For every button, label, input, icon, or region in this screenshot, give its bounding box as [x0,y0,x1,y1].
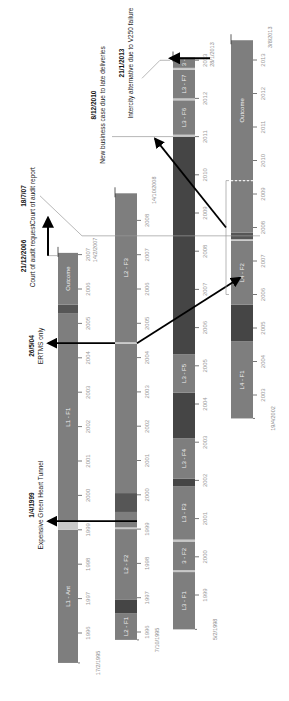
segment-label: L4 - F1 [239,370,245,390]
segment [58,521,78,530]
tick-label: 2003 [202,435,208,449]
segment [173,137,195,355]
event-new-business-case: 8/12/2010 New business case due to late … [90,46,106,164]
tick-label: 2006 [202,320,208,334]
segment-label: L3 - F4 [181,448,187,468]
tick-label: 2012 [202,91,208,105]
segment [173,68,195,70]
event-description: Court of audit request [29,225,37,288]
segment-label: L2 - F3 [123,258,129,278]
tick-label: 2000 [85,488,91,502]
tick-label: 2003 [260,388,266,402]
event-court-of-audit-request: 21/12/2006 Court of audit request [20,225,37,288]
event-line-intercity-diag [142,60,160,78]
event-line-court-report-diag [40,196,82,236]
start-date-label: 7/10/1995 [154,628,160,652]
lanes-layer: L1 - AntL1 - F1Outcome199619971998199920… [58,27,276,676]
segment [173,135,195,137]
segment-label: L2 - F2 [123,554,129,574]
segment-label: L3 - F1 [181,591,187,611]
timeline-diagram: L1 - AntL1 - F1Outcome199619971998199920… [0,0,289,701]
tick-label: 2008 [260,220,266,234]
tick-label: 2006 [260,287,266,301]
tick-label: 1999 [144,522,150,536]
segment [173,570,195,572]
tick-label: 2005 [144,316,150,330]
event-date: 21/1/2013 [118,48,125,77]
tick-label: 1997 [144,590,150,604]
lane-l2: L2 - F1L2 - F2L2 - F31996199719981999200… [115,177,160,653]
segment [173,540,195,542]
segment-label: Outcome [239,98,245,123]
segment [58,304,78,313]
segment-label: L1 - Ant [65,586,71,607]
event-intercity-alternative: 21/1/2013 Intercity alternative due to V… [118,7,135,118]
segment-label: L2 - F1 [123,616,129,636]
segment [173,393,195,439]
tick-label: 2007 [144,247,150,261]
segment [173,478,195,486]
segment [231,181,253,233]
end-date-label: 3/8/2013 [267,27,273,48]
segment-label: L3 - F6 [181,107,187,127]
segment [115,493,137,512]
segment [173,98,195,100]
segment-label: Outcome [65,266,71,291]
tick-label: 2006 [85,282,91,296]
event-description: ERTMS only [37,327,45,364]
tick-label: 2010 [202,167,208,181]
tick-label: 2007 [260,254,266,268]
tick-label: 2005 [260,321,266,335]
lane-l4: L4 - F1L4 - F2Outcome2003200420052006200… [231,27,276,431]
tick-label: 2001 [85,454,91,468]
segment-label: L3 - F7 [181,74,187,94]
event-date: 21/12/2006 [20,239,27,272]
lane-l1: L1 - AntL1 - F1Outcome199619971998199920… [58,238,101,676]
tick-label: 2004 [202,397,208,411]
tick-label: 2003 [144,385,150,399]
tick-label: 2008 [202,244,208,258]
tick-label: 2013 [202,53,208,67]
end-date-label: 14/10/2008 [151,177,157,205]
tick-label: 2009 [202,206,208,220]
tick-label: 2004 [260,354,266,368]
tick-label: 2001 [144,453,150,467]
segment [115,342,137,344]
segment [231,239,253,241]
tick-label: 1996 [85,626,91,640]
segment-label: L4 - F2 [239,263,245,283]
event-date: 1/4/1999 [28,492,35,518]
segment-label: L1 - F1 [65,407,71,427]
tick-label: 1999 [85,522,91,536]
end-date-label: 28/1/2013 [209,42,215,66]
tick-label: 2002 [144,419,150,433]
tick-label: 2008 [144,213,150,227]
tick-label: 1998 [144,556,150,570]
tick-label: 2009 [260,187,266,201]
event-description: Intercity alternative due to V250 failur… [127,7,135,118]
lane-l3: L3 - F13 - F2L3 - F3L3 - F4L3 - F5L3 - F… [173,42,218,640]
tick-label: 1998 [85,557,91,571]
event-description: New business case due to late deliveries [99,46,106,164]
tick-label: 2003 [85,385,91,399]
segment [115,527,137,529]
tick-label: 2000 [144,487,150,501]
tick-label: 2005 [85,316,91,330]
segment-label: 3 - [181,59,187,66]
tick-label: 2013 [260,53,266,67]
tick-label: 2007 [85,247,91,261]
tick-label: 2004 [85,350,91,364]
tick-label: 2002 [85,419,91,433]
event-description: Expensive Green Heart Tunnel [37,460,45,549]
event-ertms-only: 26/5/04 ERTMS only [28,327,45,364]
segment-label: 3 - F2 [181,547,187,563]
segment-label: L3 - F3 [181,503,187,523]
tick-label: 2012 [260,86,266,100]
start-date-label: 17/2/1995 [95,651,101,675]
tick-label: 2011 [260,120,266,134]
segment [231,305,253,342]
tick-label: 1997 [85,591,91,605]
tick-label: 2000 [202,549,208,563]
start-date-label: 5/2/1998 [212,619,218,640]
tick-label: 2006 [144,282,150,296]
